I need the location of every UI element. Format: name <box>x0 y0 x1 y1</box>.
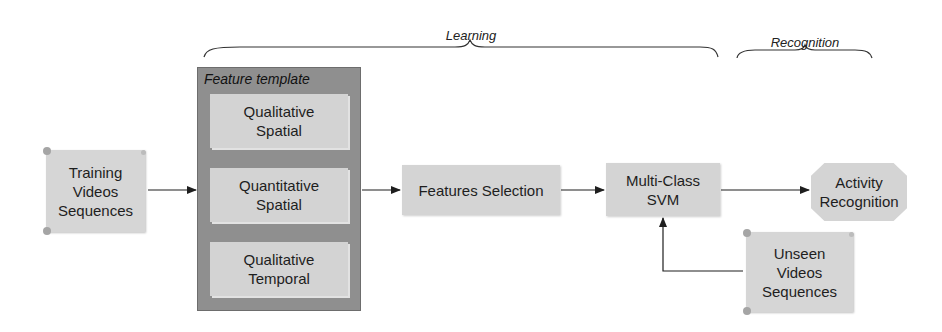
qualitative-spatial-label: Qualitative Spatial <box>244 102 315 140</box>
training-videos-label: Training Videos Sequences <box>58 163 133 220</box>
learning-phase-label: Learning <box>431 28 511 43</box>
recognition-phase-label: Recognition <box>765 35 845 50</box>
activity-recognition-node: Activity Recognition <box>811 163 907 221</box>
training-videos-node: Training Videos Sequences <box>46 150 145 232</box>
qualitative-spatial-node: Qualitative Spatial <box>210 94 348 148</box>
unseen-videos-node: Unseen Videos Sequences <box>746 232 853 312</box>
features-selection-node: Features Selection <box>402 165 560 215</box>
scroll-curl-icon <box>43 227 51 235</box>
scroll-curl-icon <box>43 147 51 155</box>
scroll-curl-icon <box>743 229 751 237</box>
multi-class-svm-node: Multi-Class SVM <box>606 163 720 216</box>
scroll-curl-icon <box>141 150 146 155</box>
scroll-curl-icon <box>849 232 854 237</box>
quantitative-spatial-label: Quantitative Spatial <box>239 176 319 214</box>
feature-template-title: Feature template <box>204 71 310 87</box>
qualitative-temporal-label: Qualitative Temporal <box>244 250 315 288</box>
arrow-unseen-to-svm <box>663 218 743 271</box>
qualitative-temporal-node: Qualitative Temporal <box>210 242 348 296</box>
quantitative-spatial-node: Quantitative Spatial <box>210 168 348 222</box>
features-selection-label: Features Selection <box>418 181 543 200</box>
scroll-curl-icon <box>743 307 751 315</box>
feature-template-group: Feature template Qualitative Spatial Qua… <box>197 67 361 311</box>
multi-class-svm-label: Multi-Class SVM <box>626 171 700 209</box>
activity-recognition-label: Activity Recognition <box>819 173 898 211</box>
unseen-videos-label: Unseen Videos Sequences <box>762 244 837 301</box>
